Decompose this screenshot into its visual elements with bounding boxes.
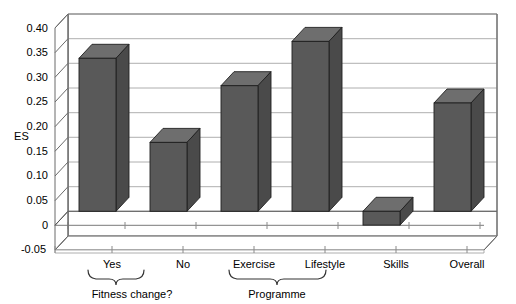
group-bracket-programme xyxy=(229,270,326,285)
x-tick-label-skills: Skills xyxy=(366,258,426,270)
plot-left-wall xyxy=(55,14,68,250)
y-tick-label: 0.05 xyxy=(14,195,48,206)
bar-overall xyxy=(434,89,484,211)
bar-exercise xyxy=(221,72,271,212)
x-tick-label-overall: Overall xyxy=(435,258,499,270)
y-tick-label: 0.15 xyxy=(14,146,48,157)
x-tick-label-lifestyle: Lifestyle xyxy=(293,258,357,270)
chart-figure: 0.40 0.35 0.30 0.25 0.20 0.15 0.10 0.05 … xyxy=(0,0,516,304)
bar-no xyxy=(150,128,200,211)
x-tick-label-no: No xyxy=(153,258,213,270)
plot-back-wall xyxy=(68,14,497,236)
x-tick-label-exercise: Exercise xyxy=(222,258,286,270)
y-tick-label: 0.25 xyxy=(14,96,48,107)
y-tick-label: 0.30 xyxy=(14,72,48,83)
y-tick-label: 0.40 xyxy=(14,23,48,34)
bar-yes xyxy=(79,44,129,211)
y-tick-label: 0.35 xyxy=(14,47,48,58)
y-tick-label: -0.05 xyxy=(12,244,46,255)
group-label-programme: Programme xyxy=(222,288,332,300)
bar-lifestyle xyxy=(292,27,342,211)
plot-floor xyxy=(55,236,497,253)
y-tick-label: 0.10 xyxy=(14,170,48,181)
y-tick-label: 0 xyxy=(14,220,48,231)
y-axis-title: ES xyxy=(14,130,29,142)
x-tick-label-yes: Yes xyxy=(82,258,142,270)
group-bracket-fitness xyxy=(88,270,144,285)
group-label-fitness-change: Fitness change? xyxy=(66,288,198,300)
